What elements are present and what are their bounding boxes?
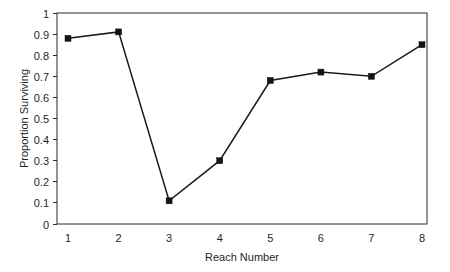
data-point-reach-5 — [267, 78, 273, 84]
x-axis-title: Reach Number — [205, 251, 279, 263]
x-tick-label-8: 8 — [419, 232, 425, 244]
x-tick-label-7: 7 — [368, 232, 374, 244]
data-point-reach-8 — [419, 42, 425, 48]
line-chart-figure: 1 0.9 0.8 0.7 0.6 0.5 0.4 0.3 0.2 0.1 0 … — [0, 0, 450, 272]
x-tick-label-2: 2 — [116, 232, 122, 244]
y-tick-label-0.6: 0.6 — [34, 92, 49, 104]
x-tick-label-3: 3 — [166, 232, 172, 244]
plot-area-frame — [57, 13, 427, 224]
data-point-reach-2 — [116, 29, 122, 35]
chart-canvas: 1 0.9 0.8 0.7 0.6 0.5 0.4 0.3 0.2 0.1 0 … — [0, 0, 450, 272]
y-tick-label-0.4: 0.4 — [34, 134, 49, 146]
y-tick-label-1: 1 — [43, 8, 49, 20]
data-point-reach-1 — [65, 35, 71, 41]
y-tick-label-0: 0 — [43, 219, 49, 231]
x-tick-label-4: 4 — [217, 232, 223, 244]
x-tick-label-5: 5 — [267, 232, 273, 244]
x-tick-label-1: 1 — [65, 232, 71, 244]
x-tick-label-6: 6 — [318, 232, 324, 244]
y-tick-label-0.3: 0.3 — [34, 155, 49, 167]
y-tick-label-0.5: 0.5 — [34, 113, 49, 125]
y-tick-label-0.8: 0.8 — [34, 50, 49, 62]
y-tick-label-0.2: 0.2 — [34, 176, 49, 188]
data-point-reach-3 — [166, 198, 172, 204]
y-tick-label-0.1: 0.1 — [34, 197, 49, 209]
y-tick-label-0.9: 0.9 — [34, 29, 49, 41]
data-point-reach-7 — [368, 73, 374, 79]
data-point-reach-6 — [318, 69, 324, 75]
y-tick-label-0.7: 0.7 — [34, 71, 49, 83]
data-point-reach-4 — [217, 158, 223, 164]
y-axis-title: Proportion Surviving — [18, 69, 30, 168]
